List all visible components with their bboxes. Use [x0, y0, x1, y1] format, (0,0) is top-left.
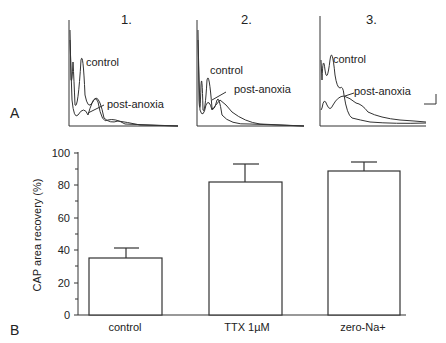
panel-a-label: A	[10, 105, 20, 121]
trace-3-post-label: post-anoxia	[354, 85, 412, 97]
svg-text:80: 80	[58, 179, 70, 191]
svg-text:20: 20	[58, 277, 70, 289]
y-tick-labels: 0 20 40 60 80 100	[52, 147, 70, 321]
trace-2-control-label: control	[210, 64, 243, 76]
figure: A 1. control post-anoxia 2. control post…	[0, 0, 446, 343]
trace-1-number: 1.	[121, 12, 132, 27]
trace-3-number: 3.	[366, 12, 377, 27]
svg-text:60: 60	[58, 212, 70, 224]
scale-bar	[424, 94, 436, 104]
trace-2-post-label: post-anoxia	[234, 83, 292, 95]
svg-text:control: control	[108, 321, 141, 333]
y-axis-label: CAP area recovery (%)	[31, 179, 43, 292]
bar-control	[89, 258, 162, 315]
svg-text:zero-Na+: zero-Na+	[340, 321, 386, 333]
trace-1-control-label: control	[86, 56, 119, 68]
trace-1-post-label: post-anoxia	[107, 98, 165, 110]
svg-text:100: 100	[52, 147, 70, 159]
trace-3-control-label: control	[333, 53, 366, 65]
svg-text:TTX 1µM: TTX 1µM	[224, 321, 269, 333]
svg-text:40: 40	[58, 244, 70, 256]
bar-zero-na	[328, 171, 400, 315]
bar-ttx	[209, 182, 282, 315]
trace-panel-3	[320, 16, 426, 126]
trace-panel-1	[69, 20, 178, 126]
svg-text:0: 0	[64, 309, 70, 321]
panel-b-label: B	[10, 322, 19, 338]
bar-chart: CAP area recovery (%) 0 20 40 60 80 100	[31, 147, 406, 333]
x-tick-labels: control TTX 1µM zero-Na+	[108, 321, 385, 333]
trace-2-number: 2.	[241, 12, 252, 27]
